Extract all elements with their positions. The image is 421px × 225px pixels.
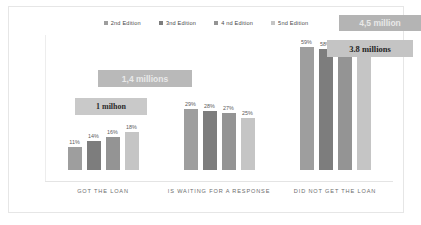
bar-value-label: 18%: [126, 124, 137, 130]
bar[interactable]: [300, 47, 314, 170]
legend-item-2nd-edition[interactable]: 2nd Edition: [104, 20, 141, 26]
bar[interactable]: [125, 132, 139, 170]
bar[interactable]: [203, 111, 217, 170]
bar[interactable]: [106, 137, 120, 170]
bar[interactable]: [357, 51, 371, 170]
x-axis-category-label: IS WAITING FOR A RESPONSE: [161, 187, 277, 196]
x-axis-category-label: GOT THE LOAN: [45, 187, 161, 196]
bar-value-label: 11%: [69, 139, 79, 145]
legend-item-5nd-edition[interactable]: 5nd Edition: [271, 20, 308, 26]
bar-value-label: 29%: [185, 101, 196, 107]
legend-swatch-icon: [159, 21, 163, 25]
x-axis-line: [45, 181, 393, 182]
legend-swatch-icon: [271, 21, 275, 25]
bar[interactable]: [184, 109, 198, 170]
bar[interactable]: [87, 141, 101, 170]
bar-wrap: 25%: [241, 35, 255, 170]
bar[interactable]: [241, 118, 255, 170]
legend-label: 3nd Edition: [166, 20, 196, 26]
bar-group-is-waiting-for-a-response: 29% 28% 27% 25%: [161, 35, 277, 170]
bar[interactable]: [68, 147, 82, 170]
bar-wrap: 27%: [222, 35, 236, 170]
callout-one-million: 1 milhon: [75, 98, 147, 115]
bar-value-label: 59%: [301, 39, 312, 45]
callout-four-point-five-million: 4,5 million: [339, 15, 421, 31]
callout-one-point-four-millions: 1,4 millions: [98, 70, 192, 87]
bar-value-label: 16%: [107, 129, 118, 135]
legend-item-4-nd-edition[interactable]: 4 nd Edition: [214, 20, 253, 26]
legend-item-3nd-edition[interactable]: 3nd Edition: [159, 20, 196, 26]
x-axis-category-label: DID NOT GET THE LOAN: [277, 187, 393, 196]
bar-wrap: 59%: [300, 35, 314, 170]
bar-value-label: 25%: [242, 110, 253, 116]
legend-swatch-icon: [104, 21, 108, 25]
legend-label: 2nd Edition: [111, 20, 141, 26]
legend-label: 4 nd Edition: [221, 20, 253, 26]
bar-value-label: 14%: [88, 133, 99, 139]
x-axis-category-labels: GOT THE LOAN IS WAITING FOR A RESPONSE D…: [45, 187, 393, 196]
legend-swatch-icon: [214, 21, 218, 25]
bar[interactable]: [338, 51, 352, 170]
legend-label: 5nd Edition: [278, 20, 308, 26]
bar-value-label: 28%: [204, 103, 215, 109]
chart-container: 2nd Edition 3nd Edition 4 nd Edition 5nd…: [8, 6, 404, 213]
bar[interactable]: [319, 49, 333, 170]
callout-three-point-eight-millions: 3.8 millions: [327, 40, 413, 57]
bar[interactable]: [222, 113, 236, 170]
bar-value-label: 27%: [223, 105, 234, 111]
bar-wrap: 29%: [184, 35, 198, 170]
bar-wrap: 28%: [203, 35, 217, 170]
